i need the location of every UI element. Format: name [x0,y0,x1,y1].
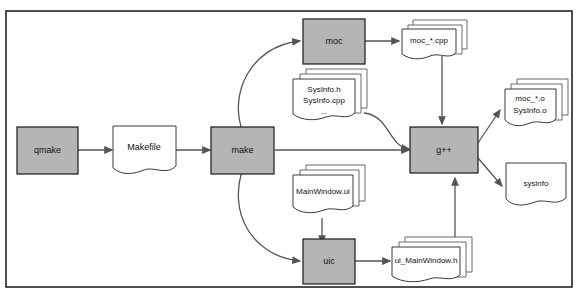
qmake-box[interactable] [17,127,78,174]
ui-mainwindow-h-front-sheet[interactable] [392,247,460,282]
make-box[interactable] [211,127,274,174]
uic-box[interactable] [303,239,355,284]
node-sysinfo-sources-stack[interactable]: SysInfo.h SysInfo.cpp ... [293,69,367,120]
node-make[interactable]: make [211,127,274,174]
node-makefile[interactable]: Makefile [113,126,176,174]
node-gpp[interactable]: g++ [410,127,478,173]
mainwindow-ui-front-sheet[interactable] [293,175,353,213]
node-objects-stack[interactable]: moc_*.o SysInfo.o [505,79,568,126]
gpp-box[interactable] [410,127,478,173]
edge-sysinfo-sources-to-gpp [364,113,409,149]
node-ui-mainwindow-h-stack[interactable]: ui_MainWindow.h [392,237,472,282]
build-process-diagram: qmake Makefile make moc moc_*.cpp SysInf… [0,0,583,298]
edge-make-to-uic [238,169,300,261]
makefile-doc-shape[interactable] [113,126,176,174]
edge-make-to-moc [238,41,300,132]
moc-cpp-front-sheet[interactable] [402,29,456,59]
node-sysinfo-binary[interactable]: sysinfo [506,163,566,205]
edge-gpp-to-objects [478,110,500,143]
sysinfo-sources-front-sheet[interactable] [293,79,355,120]
node-qmake[interactable]: qmake [17,127,78,174]
node-moc[interactable]: moc [303,19,365,64]
sysinfo-binary-shape[interactable] [506,163,566,205]
moc-box[interactable] [303,19,365,64]
objects-front-sheet[interactable] [505,89,556,126]
node-moc-cpp-stack[interactable]: moc_*.cpp [402,20,467,59]
diagram-frame [6,11,572,287]
node-uic[interactable]: uic [303,239,355,284]
node-mainwindow-ui-stack[interactable]: MainWindow.ui [293,165,365,213]
edge-gpp-to-sysinfo [478,158,502,186]
